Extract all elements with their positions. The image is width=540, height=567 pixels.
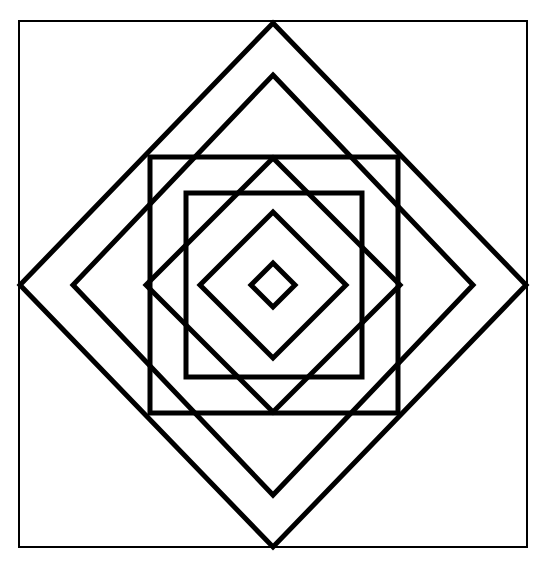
outer-diamond xyxy=(20,23,526,547)
second-diamond xyxy=(73,75,473,495)
geometric-pattern-figure xyxy=(0,0,540,567)
squares-group xyxy=(150,157,398,413)
diamonds-group xyxy=(20,23,526,547)
inner-diamond xyxy=(200,212,346,358)
outer-frame xyxy=(19,21,527,547)
center-diamond xyxy=(251,263,295,307)
